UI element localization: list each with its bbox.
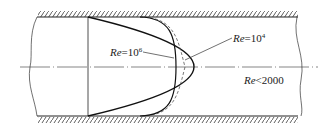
- top-wall-hatching: [38, 11, 298, 17]
- re-1e6-label: Re=106: [109, 46, 143, 58]
- bottom-wall-hatching: [38, 117, 298, 123]
- left-break-line: [29, 17, 37, 116]
- laminar-profile-curve: [88, 17, 194, 116]
- re-1e6-leader-line: [143, 52, 174, 58]
- right-break-line: [296, 17, 302, 116]
- diagram-svg: Re=104 Re=106 Re<2000: [0, 0, 335, 136]
- re-1e4-label: Re=104: [232, 32, 266, 44]
- pipe-flow-diagram: Re=104 Re=106 Re<2000: [0, 0, 335, 136]
- re-1e6-profile-curve: [140, 17, 176, 116]
- re-1e4-profile-curve: [140, 17, 185, 116]
- re-1e4-leader-line: [185, 38, 232, 60]
- re-laminar-label: Re<2000: [243, 74, 284, 86]
